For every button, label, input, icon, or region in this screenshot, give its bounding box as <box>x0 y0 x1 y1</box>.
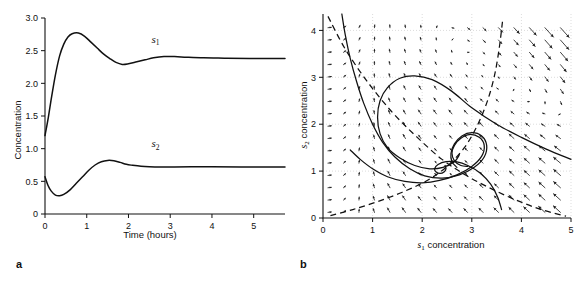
panel-b-axes: 01234012345 <box>311 14 574 235</box>
panel-a-y-tick-label: 1.0 <box>25 144 38 154</box>
vector-field-arrowhead <box>358 209 360 211</box>
vector-field-arrowhead <box>373 62 375 64</box>
panel-a-x-tick-label: 5 <box>251 221 256 231</box>
vector-field-arrowhead <box>330 137 332 139</box>
curve-label-s1: s1 <box>151 33 159 48</box>
vector-field-arrowhead <box>358 185 360 187</box>
vector-field-arrowhead <box>330 51 332 53</box>
s2-nullcline <box>328 16 566 216</box>
vector-field-arrowhead <box>389 25 391 27</box>
panel-a-y-tick-label: 2.5 <box>25 46 38 56</box>
panel-b-y-tick-label: 2 <box>311 119 316 129</box>
vector-field-arrowhead <box>373 86 375 88</box>
panel-b-x-tick-label: 0 <box>320 225 325 235</box>
panel-b-nullclines <box>328 16 566 216</box>
vector-field-arrowhead <box>330 63 332 65</box>
panel-a-svg: 00.51.01.52.02.53.0012345 s1s2 Concentra… <box>0 0 291 282</box>
vector-field-arrowhead <box>420 25 422 27</box>
vector-field-arrowhead <box>330 199 332 201</box>
panel-b-y-tick-label: 0 <box>311 213 316 223</box>
vector-field-arrowhead <box>330 186 332 188</box>
panel-a-letter: a <box>16 258 23 270</box>
panel-a-x-axis-title: Time (hours) <box>123 229 177 240</box>
vector-field-arrowhead <box>468 51 469 53</box>
trajectory-from-top-left <box>342 14 487 178</box>
panel-a-y-axis-title: Concentration <box>12 100 23 159</box>
trajectory-lower-left <box>350 135 484 183</box>
curve-label-s2: s2 <box>151 137 159 152</box>
vector-field-arrowhead <box>330 125 332 127</box>
vector-field-arrowhead <box>373 49 375 51</box>
panel-b-x-tick-label: 2 <box>420 225 425 235</box>
panel-a-time-course: 00.51.01.52.02.53.0012345 s1s2 Concentra… <box>0 0 291 282</box>
panel-b-x-tick-label: 3 <box>469 225 474 235</box>
panel-b-y-axis-title: s2 concentration <box>298 82 311 149</box>
curve-s1 <box>45 33 285 136</box>
vector-field-arrowhead <box>358 197 360 199</box>
panel-a-y-tick-label: 0 <box>33 209 38 219</box>
panel-a-x-tick-label: 0 <box>42 221 47 231</box>
panel-b-trajectories <box>342 14 571 210</box>
vector-field-arrowhead <box>330 26 332 28</box>
panel-b-y-tick-label: 3 <box>311 73 316 83</box>
figure-container: 00.51.01.52.02.53.0012345 s1s2 Concentra… <box>0 0 582 282</box>
vector-field-arrowhead <box>330 39 332 41</box>
vector-field-arrowhead <box>528 101 530 103</box>
vector-field-arrowhead <box>330 76 332 78</box>
panel-b-phase-portrait: 01234012345 s2 concentration s1 concentr… <box>291 0 582 282</box>
vector-field-arrowhead <box>374 25 376 27</box>
vector-field-arrowhead <box>330 88 332 90</box>
panel-b-y-tick-label: 4 <box>311 26 316 36</box>
panel-b-svg: 01234012345 s2 concentration s1 concentr… <box>291 0 582 282</box>
panel-b-letter: b <box>300 258 307 270</box>
panel-b-x-tick-label: 5 <box>568 225 573 235</box>
vector-field-arrowhead <box>330 162 332 164</box>
s1-nullcline <box>330 21 502 216</box>
trajectory-outer-from-right <box>378 76 571 169</box>
vector-field-arrowhead <box>330 211 332 213</box>
panel-b-x-tick-label: 4 <box>519 225 524 235</box>
vector-field-arrowhead <box>330 100 332 102</box>
panel-b-x-axis-title: s1 concentration <box>418 239 485 252</box>
panel-b-x-tick-label: 1 <box>370 225 375 235</box>
vector-field-arrowhead <box>373 74 375 76</box>
panel-a-x-tick-label: 4 <box>209 221 214 231</box>
vector-field-arrowhead <box>330 113 332 115</box>
vector-field-arrowhead <box>330 150 332 152</box>
panel-b-y-tick-label: 1 <box>311 166 316 176</box>
panel-b-vector-field <box>328 25 569 213</box>
panel-a-x-tick-label: 1 <box>84 221 89 231</box>
vector-field-arrowhead <box>544 102 546 104</box>
panel-a-y-tick-label: 2.0 <box>25 79 38 89</box>
curve-s2 <box>45 160 285 195</box>
vector-field-arrowhead <box>330 174 332 176</box>
panel-a-y-tick-label: 0.5 <box>25 177 38 187</box>
panel-a-y-tick-label: 3.0 <box>25 13 38 23</box>
panel-a-y-tick-label: 1.5 <box>25 111 38 121</box>
vector-field-arrowhead <box>374 37 376 39</box>
panel-a-curves: s1s2 <box>45 33 285 196</box>
